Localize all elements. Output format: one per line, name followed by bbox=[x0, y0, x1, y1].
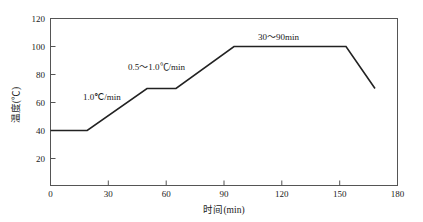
x-tick-label: 150 bbox=[333, 189, 347, 199]
annotation-hold-time: 30～90min bbox=[258, 32, 300, 42]
temperature-series bbox=[51, 47, 376, 131]
x-axis-ticks bbox=[51, 181, 398, 186]
annotation-rate-1: 1.0℃/min bbox=[83, 92, 121, 102]
y-axis-tick-labels: 120 100 80 60 40 20 bbox=[32, 14, 46, 164]
temperature-profile-chart: 120 100 80 60 40 20 0 30 60 90 120 150 1… bbox=[0, 0, 423, 222]
annotation-rate-2: 0.5～1.0℃/min bbox=[128, 62, 186, 72]
x-axis-title: 时间(min) bbox=[203, 204, 244, 216]
plot-frame bbox=[51, 19, 398, 186]
y-tick-label: 120 bbox=[32, 14, 46, 24]
x-tick-label: 120 bbox=[275, 189, 289, 199]
x-tick-label: 180 bbox=[391, 189, 405, 199]
x-tick-label: 0 bbox=[48, 189, 53, 199]
y-tick-label: 100 bbox=[32, 42, 46, 52]
y-axis-ticks bbox=[51, 19, 56, 159]
y-tick-label: 20 bbox=[36, 154, 46, 164]
x-tick-label: 90 bbox=[220, 189, 230, 199]
y-tick-label: 60 bbox=[36, 98, 46, 108]
x-tick-label: 30 bbox=[104, 189, 114, 199]
y-tick-label: 80 bbox=[36, 70, 46, 80]
y-axis-title: 温度(℃) bbox=[10, 87, 22, 123]
y-tick-label: 40 bbox=[36, 126, 46, 136]
x-tick-label: 60 bbox=[162, 189, 172, 199]
x-axis-tick-labels: 0 30 60 90 120 150 180 bbox=[48, 189, 405, 199]
